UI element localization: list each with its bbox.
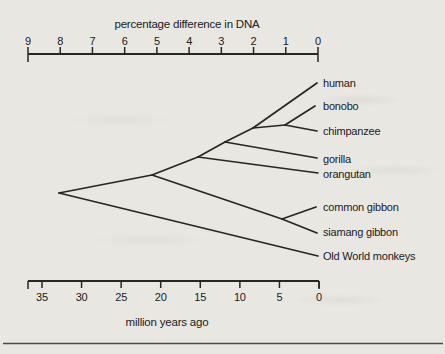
bottom-axis-tick-label-5: 5 [276,291,282,303]
taxon-label-common-gibbon: common gibbon [323,201,399,213]
taxon-label-human: human [323,77,356,89]
top-axis-tick-label-9: 9 [25,35,31,47]
taxa-labels: humanbonobochimpanzeegorillaorangutancom… [323,77,416,262]
edge-old-world-monkeys [59,193,318,256]
edge-orangutan [198,157,318,173]
edge-siamang-gibbon [282,219,317,233]
top-axis-tick-label-2: 2 [251,35,257,47]
tree-branches [59,83,318,256]
top-axis-tick-label-8: 8 [57,35,63,47]
bottom-axis-tick-label-20: 20 [155,291,167,303]
edge-great-apes [152,157,198,175]
bottom-axis-tick-label-35: 35 [36,291,48,303]
edge-human [253,83,317,128]
edge-gibbons [152,175,282,219]
top-axis-title: percentage difference in DNA [114,18,260,30]
taxon-label-bonobo: bonobo [323,100,359,112]
edge-homininae [225,128,253,142]
taxon-label-old-world-monkeys: Old World monkeys [323,250,416,262]
taxon-label-siamang-gibbon: siamang gibbon [323,226,398,238]
bottom-axis-tick-label-10: 10 [234,291,246,303]
bottom-axis: 35302520151050 [28,281,322,303]
taxon-label-chimpanzee: chimpanzee [323,125,380,137]
top-axis-tick-label-7: 7 [89,35,95,47]
taxon-label-orangutan: orangutan [323,168,371,180]
edge-common-gibbon [282,207,316,219]
top-axis-tick-label-5: 5 [154,35,160,47]
bottom-axis-tick-label-25: 25 [115,291,127,303]
edge-african-apes [198,142,225,157]
taxon-label-gorilla: gorilla [323,153,352,165]
top-axis-tick-label-3: 3 [218,35,224,47]
top-axis-tick-label-0: 0 [315,35,321,47]
top-axis-tick-label-6: 6 [122,35,128,47]
bottom-axis-tick-label-30: 30 [76,291,88,303]
top-axis: 9876543210 [25,35,321,63]
phylogenetic-tree-diagram: percentage difference in DNA 9876543210 … [0,0,445,354]
edge-chimpanzee [285,125,317,131]
bottom-axis-title: million years ago [126,316,209,328]
edge-gorilla [225,142,317,158]
top-axis-tick-label-4: 4 [186,35,192,47]
top-axis-tick-label-1: 1 [283,35,289,47]
edge-root-apes [59,175,152,193]
bottom-axis-tick-label-0: 0 [316,291,322,303]
edge-bonobo [285,106,315,125]
scanned-book-figure: percentage difference in DNA 9876543210 … [0,0,445,354]
bottom-axis-tick-label-15: 15 [194,291,206,303]
